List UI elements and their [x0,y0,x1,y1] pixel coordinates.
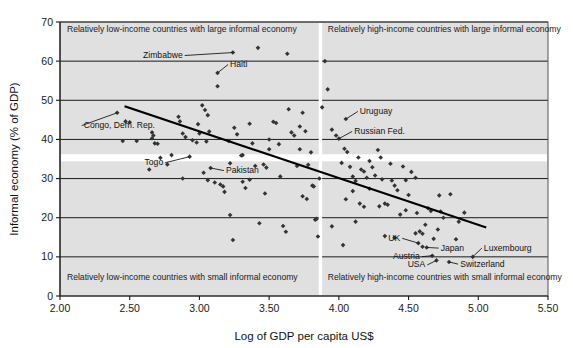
annotation-label: Haiti [230,59,247,69]
quadrant-label: Relatively high-income countries with sm… [328,272,563,282]
x-axis-tick-label: 2.50 [119,302,140,314]
x-axis-title: Log of GDP per capita US$ [234,330,374,342]
x-axis-tick-label: 2.00 [50,302,71,314]
quadrant-label: Relatively high-income countries with la… [328,24,562,34]
annotation-label: Zimbabwe [143,50,183,60]
y-axis-tick-label: 70 [41,16,53,28]
x-axis-tick-label: 3.00 [189,302,210,314]
scan-band-horizontal [61,154,547,161]
annotation-label: UK [388,233,400,243]
annotation-label: Uruguay [360,106,393,116]
quadrant-divider [319,23,322,295]
quadrant-label: Relatively low-income countries with lar… [67,24,297,34]
annotation-label: Japan [441,243,465,253]
annotation-label: Switzerland [460,259,505,269]
annotation-leader [427,247,439,248]
x-axis-tick-label: 5.50 [538,302,559,314]
y-axis-title: Informal economy (% of GDP) [8,82,20,236]
annotation-label: Pakistan [226,165,259,175]
x-axis-tick-label: 3.50 [259,302,280,314]
scatter-plot-svg: 0102030405060702.002.503.003.504.004.505… [0,0,573,348]
x-axis-tick-label: 4.50 [398,302,419,314]
annotation-label: Congo, Dem. Rep. [84,120,155,130]
y-axis-tick-label: 0 [47,290,53,302]
y-axis-tick-label: 30 [41,172,53,184]
y-axis-tick-label: 20 [41,211,53,223]
annotation-label: Luxembourg [484,243,532,253]
annotation-label: Russian Fed. [354,126,405,136]
chart-figure: 0102030405060702.002.503.003.504.004.505… [0,0,573,348]
annotation-label: USA [408,259,426,269]
quadrant-label: Relatively low-income countries with sma… [67,272,298,282]
x-axis-tick-label: 5.00 [468,302,489,314]
y-axis-tick-label: 60 [41,55,53,67]
y-axis-tick-label: 50 [41,94,53,106]
y-axis-tick-label: 40 [41,133,53,145]
x-axis-tick-label: 4.00 [329,302,350,314]
annotation-label: Togo [145,157,164,167]
y-axis-tick-label: 10 [41,250,53,262]
